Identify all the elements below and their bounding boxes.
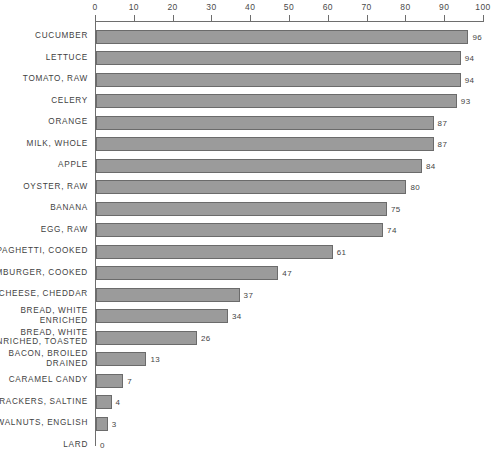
bar-category-label: CRACKERS, SALTINE bbox=[0, 397, 88, 407]
bar-row: BACON, BROILED DRAINED13 bbox=[0, 349, 494, 371]
bar bbox=[96, 30, 468, 44]
bar-track: 47 bbox=[96, 266, 494, 280]
bar-category-label: CHEESE, CHEDDAR bbox=[0, 289, 88, 299]
bar-category-label: APPLE bbox=[0, 160, 88, 170]
bar-value-label: 87 bbox=[438, 140, 448, 149]
bar-track: 84 bbox=[96, 159, 494, 173]
bar-category-label: TOMATO, RAW bbox=[0, 74, 88, 84]
bar-category-label: WALNUTS, ENGLISH bbox=[0, 418, 88, 428]
bar-row: TOMATO, RAW94 bbox=[0, 69, 494, 91]
x-axis-tick-label: 80 bbox=[400, 2, 410, 12]
bar-row: MILK, WHOLE87 bbox=[0, 134, 494, 156]
bar-chart: 0102030405060708090100 CUCUMBER96LETTUCE… bbox=[0, 0, 494, 460]
bar-rows: CUCUMBER96LETTUCE94TOMATO, RAW94CELERY93… bbox=[0, 26, 494, 456]
bar-category-label: EGG, RAW bbox=[0, 225, 88, 235]
bar bbox=[96, 266, 278, 280]
bar-value-label: 84 bbox=[426, 162, 436, 171]
bar-track: 13 bbox=[96, 352, 494, 366]
x-axis: 0102030405060708090100 bbox=[0, 0, 494, 26]
bar-row: LETTUCE94 bbox=[0, 48, 494, 70]
bar-row: SPAGHETTI, COOKED61 bbox=[0, 241, 494, 263]
bar-value-label: 96 bbox=[472, 33, 482, 42]
bar bbox=[96, 374, 123, 388]
bar-track: 4 bbox=[96, 395, 494, 409]
bar bbox=[96, 159, 422, 173]
bar bbox=[96, 73, 461, 87]
bar-row: APPLE84 bbox=[0, 155, 494, 177]
x-axis-line bbox=[95, 21, 484, 22]
bar-category-label: CARAMEL CANDY bbox=[0, 375, 88, 385]
bar-category-label: BREAD, WHITE ENRICHED, TOASTED bbox=[0, 328, 88, 347]
bar bbox=[96, 352, 146, 366]
bar bbox=[96, 331, 197, 345]
bar-row: CHEESE, CHEDDAR37 bbox=[0, 284, 494, 306]
bar-track: 94 bbox=[96, 73, 494, 87]
x-axis-tick-label: 70 bbox=[361, 2, 371, 12]
bar-category-label: CUCUMBER bbox=[0, 31, 88, 41]
bar-track: 34 bbox=[96, 309, 494, 323]
bar-row: EGG, RAW74 bbox=[0, 220, 494, 242]
bar-value-label: 80 bbox=[410, 183, 420, 192]
bar bbox=[96, 116, 434, 130]
bar-track: 7 bbox=[96, 374, 494, 388]
x-axis-tick-label: 10 bbox=[129, 2, 139, 12]
bar-category-label: BREAD, WHITE ENRICHED bbox=[0, 306, 88, 325]
bar-track: 87 bbox=[96, 116, 494, 130]
bar-value-label: 7 bbox=[127, 377, 132, 386]
bar-value-label: 34 bbox=[232, 312, 242, 321]
bar-value-label: 13 bbox=[150, 355, 160, 364]
bar-row: BANANA75 bbox=[0, 198, 494, 220]
bar-row: ORANGE87 bbox=[0, 112, 494, 134]
bar-value-label: 0 bbox=[100, 441, 105, 450]
x-axis-tick-label: 40 bbox=[245, 2, 255, 12]
bar-value-label: 61 bbox=[337, 248, 347, 257]
bar-row: WALNUTS, ENGLISH3 bbox=[0, 413, 494, 435]
bar bbox=[96, 51, 461, 65]
bar-track: 80 bbox=[96, 180, 494, 194]
x-axis-tick-label: 0 bbox=[92, 2, 97, 12]
bar-track: 37 bbox=[96, 288, 494, 302]
bar-category-label: OYSTER, RAW bbox=[0, 182, 88, 192]
bar-value-label: 93 bbox=[461, 97, 471, 106]
bar-value-label: 74 bbox=[387, 226, 397, 235]
bar-track: 75 bbox=[96, 202, 494, 216]
bar-value-label: 47 bbox=[282, 269, 292, 278]
bar-category-label: BANANA bbox=[0, 203, 88, 213]
bar bbox=[96, 180, 406, 194]
bar-track: 87 bbox=[96, 137, 494, 151]
x-axis-tick-label: 100 bbox=[475, 2, 490, 12]
bar-value-label: 94 bbox=[465, 76, 475, 85]
bar-category-label: MILK, WHOLE bbox=[0, 139, 88, 149]
bar-track: 93 bbox=[96, 94, 494, 108]
bar-track: 26 bbox=[96, 331, 494, 345]
x-axis-tick-label: 20 bbox=[167, 2, 177, 12]
bar-track: 94 bbox=[96, 51, 494, 65]
bar bbox=[96, 245, 333, 259]
bar-category-label: CELERY bbox=[0, 96, 88, 106]
bar-category-label: LARD bbox=[0, 440, 88, 450]
bar-row: HAMBURGER, COOKED47 bbox=[0, 263, 494, 285]
bar bbox=[96, 137, 434, 151]
bar-track: 96 bbox=[96, 30, 494, 44]
bar-value-label: 75 bbox=[391, 205, 401, 214]
bar-track: 61 bbox=[96, 245, 494, 259]
bar-track: 0 bbox=[96, 438, 494, 452]
bar-value-label: 26 bbox=[201, 334, 211, 343]
bar-category-label: LETTUCE bbox=[0, 53, 88, 63]
bar-category-label: SPAGHETTI, COOKED bbox=[0, 246, 88, 256]
bar-row: CUCUMBER96 bbox=[0, 26, 494, 48]
bar-row: BREAD, WHITE ENRICHED34 bbox=[0, 306, 494, 328]
bar bbox=[96, 223, 383, 237]
bar-category-label: ORANGE bbox=[0, 117, 88, 127]
bar-value-label: 37 bbox=[244, 291, 254, 300]
bar-value-label: 94 bbox=[465, 54, 475, 63]
bar-category-label: HAMBURGER, COOKED bbox=[0, 268, 88, 278]
x-axis-tick-label: 60 bbox=[323, 2, 333, 12]
bar-value-label: 3 bbox=[112, 420, 117, 429]
bar bbox=[96, 395, 112, 409]
bar-value-label: 87 bbox=[438, 119, 448, 128]
bar-row: CELERY93 bbox=[0, 91, 494, 113]
bar-row: LARD0 bbox=[0, 435, 494, 457]
bar bbox=[96, 417, 108, 431]
bar bbox=[96, 309, 228, 323]
